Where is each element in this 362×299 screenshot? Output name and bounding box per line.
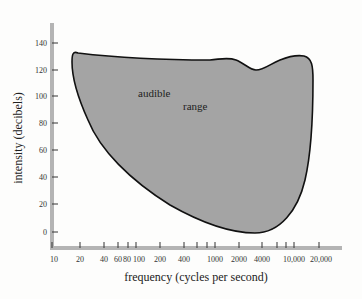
x-tick-10: 10 bbox=[50, 255, 58, 264]
x-axis-title: frequency (cycles per second) bbox=[124, 270, 268, 284]
y-tick-labels: 140 120 100 80 60 40 20 0 bbox=[35, 39, 47, 237]
x-tick-10000: 10,000 bbox=[283, 255, 305, 264]
x-tick-1000: 1000 bbox=[207, 255, 223, 264]
x-axis bbox=[50, 246, 342, 250]
x-tick-20000: 20,000 bbox=[310, 255, 332, 264]
audible-range-region bbox=[72, 52, 313, 233]
y-tick-0: 0 bbox=[43, 228, 47, 237]
range-label: range bbox=[183, 100, 208, 112]
y-tick-100: 100 bbox=[35, 92, 47, 101]
x-tick-4000: 4000 bbox=[254, 255, 270, 264]
x-tick-2000: 2000 bbox=[231, 255, 247, 264]
y-tick-40: 40 bbox=[39, 173, 47, 182]
y-tick-140: 140 bbox=[35, 39, 47, 48]
y-axis-title: intensity (decibels) bbox=[11, 92, 25, 184]
y-tick-60: 60 bbox=[39, 146, 47, 155]
x-tick-60: 60 bbox=[114, 255, 122, 264]
x-tick-80: 80 bbox=[123, 255, 131, 264]
y-tick-20: 20 bbox=[39, 200, 47, 209]
x-tick-labels: 10 20 40 60 80 100 200 400 1000 2000 400… bbox=[50, 255, 332, 264]
y-tick-80: 80 bbox=[39, 119, 47, 128]
x-tick-400: 400 bbox=[178, 255, 190, 264]
x-tick-100: 100 bbox=[133, 255, 145, 264]
audible-label: audible bbox=[138, 87, 170, 99]
audible-range-chart: 140 120 100 80 60 40 20 0 10 20 40 60 80… bbox=[0, 0, 362, 299]
x-tick-20: 20 bbox=[76, 255, 84, 264]
y-tick-120: 120 bbox=[35, 66, 47, 75]
x-tick-200: 200 bbox=[154, 255, 166, 264]
x-tick-40: 40 bbox=[100, 255, 108, 264]
y-axis bbox=[50, 23, 54, 250]
